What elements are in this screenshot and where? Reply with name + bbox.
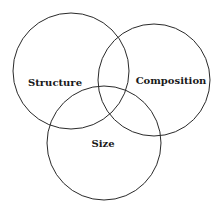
- circle-structure-group: [13, 13, 129, 129]
- label-structure: Structure: [28, 77, 82, 88]
- label-size: Size: [91, 138, 114, 149]
- label-composition: Composition: [136, 75, 207, 86]
- venn-diagram: Structure Composition Size: [0, 0, 221, 212]
- circle-structure: [13, 13, 129, 129]
